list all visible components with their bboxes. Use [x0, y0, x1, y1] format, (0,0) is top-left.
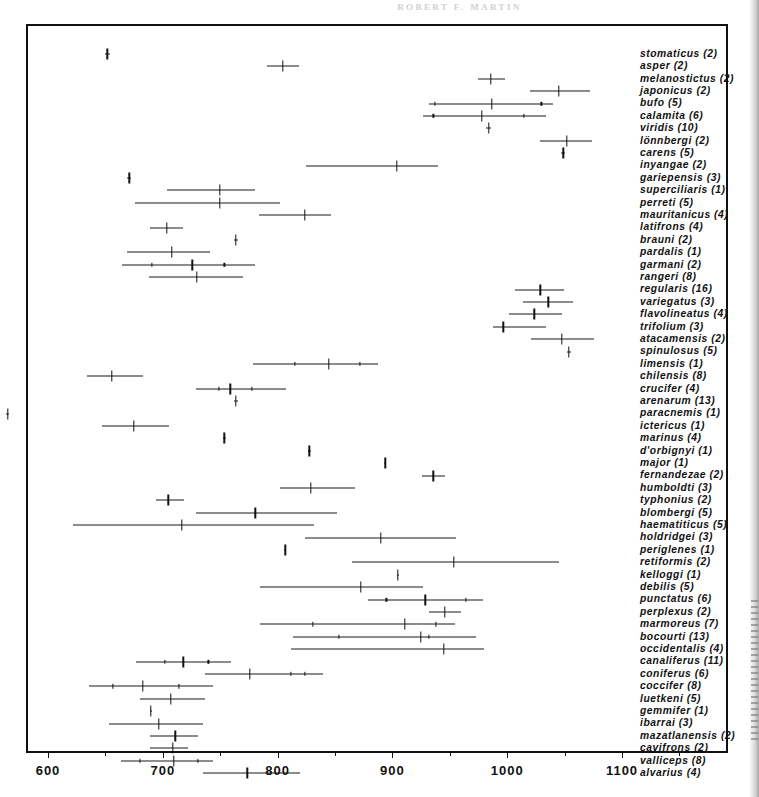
- species-row: ictericus (1): [28, 420, 726, 432]
- species-label: typhonius (2): [640, 494, 712, 506]
- species-row: debilis (5): [28, 581, 726, 593]
- sd-tick: [435, 622, 436, 626]
- species-label: mauritanicus (4): [640, 209, 728, 221]
- species-label: canaliferus (11): [640, 655, 724, 667]
- species-label: inyangae (2): [640, 159, 707, 171]
- x-axis: 60070080090010001100: [26, 753, 728, 793]
- species-row: superciliaris (1): [28, 184, 726, 196]
- page-edge-speckle: [751, 600, 758, 740]
- species-label: rangeri (8): [640, 271, 696, 283]
- running-head: ROBERT F. MARTIN: [0, 2, 759, 16]
- species-label: melanostictus (2): [640, 73, 734, 85]
- species-row: mazatlanensis (2): [28, 730, 726, 742]
- sd-tick: [113, 684, 114, 688]
- sd-tick: [251, 387, 252, 391]
- species-label: brauni (2): [640, 234, 692, 246]
- species-label: bocourti (13): [640, 631, 710, 643]
- sd-tick: [208, 659, 209, 663]
- species-label: arenarum (13): [640, 395, 715, 407]
- range-bar: [196, 388, 287, 389]
- species-row: kelloggi (1): [28, 569, 726, 581]
- mean-tick: [111, 371, 112, 382]
- species-label: regularis (16): [640, 283, 712, 295]
- sd-tick: [224, 263, 225, 267]
- mean-tick: [174, 730, 175, 741]
- mean-tick: [7, 408, 8, 419]
- species-row: limensis (1): [28, 358, 726, 370]
- data-layer: stomaticus (2)asper (2)melanostictus (2)…: [28, 26, 726, 751]
- sd-tick: [290, 672, 291, 676]
- mean-tick: [503, 321, 504, 332]
- range-bar: [306, 165, 438, 166]
- mean-tick: [420, 631, 421, 642]
- species-label: spinulosus (5): [640, 345, 718, 357]
- mean-tick: [491, 98, 492, 109]
- species-row: retiformis (2): [28, 556, 726, 568]
- sd-tick: [359, 362, 360, 366]
- species-row: mauritanicus (4): [28, 209, 726, 221]
- x-tick-label: 600: [36, 763, 61, 778]
- species-label: mazatlanensis (2): [640, 730, 735, 742]
- species-row: asper (2): [28, 60, 726, 72]
- range-bar: [291, 649, 484, 650]
- range-bar: [509, 314, 562, 315]
- mean-tick: [488, 123, 489, 134]
- mean-tick: [182, 656, 183, 667]
- species-row: d'orbignyi (1): [28, 445, 726, 457]
- species-label: blombergi (5): [640, 507, 712, 519]
- mean-tick: [481, 110, 482, 121]
- mean-tick: [304, 210, 305, 221]
- species-label: humboldti (3): [640, 482, 712, 494]
- species-label: crucifer (4): [640, 383, 700, 395]
- sd-tick: [433, 114, 434, 118]
- range-bar: [102, 425, 170, 426]
- mean-tick: [235, 396, 236, 407]
- mean-tick: [129, 172, 130, 183]
- range-bar: [260, 587, 423, 588]
- x-tick-label: 1000: [491, 763, 524, 778]
- species-label: perplexus (2): [640, 606, 711, 618]
- sd-tick: [294, 362, 295, 366]
- mean-tick: [568, 346, 569, 357]
- mean-tick: [219, 185, 220, 196]
- species-label: paracnemis (1): [640, 407, 720, 419]
- sd-tick: [152, 263, 153, 267]
- species-label: latifrons (4): [640, 221, 703, 233]
- x-tick-label: 1100: [606, 763, 638, 778]
- mean-tick: [444, 606, 445, 617]
- species-row: crucifer (4): [28, 383, 726, 395]
- species-row: flavolineatus (4): [28, 308, 726, 320]
- mean-tick: [142, 681, 143, 692]
- species-row: blombergi (5): [28, 507, 726, 519]
- range-bar: [260, 624, 455, 625]
- species-label: luetkeni (5): [640, 693, 701, 705]
- sd-tick: [339, 635, 340, 639]
- range-bar: [352, 562, 559, 563]
- species-label: fernandezae (2): [640, 469, 724, 481]
- mean-tick: [285, 544, 286, 555]
- sd-tick: [312, 622, 313, 626]
- mean-tick: [158, 718, 159, 729]
- range-bar: [156, 500, 185, 501]
- species-label: japonicus (2): [640, 85, 711, 97]
- sd-tick: [434, 101, 435, 105]
- species-row: fernandezae (2): [28, 469, 726, 481]
- species-label: marmoreus (7): [640, 618, 719, 630]
- mean-tick: [380, 532, 381, 543]
- species-label: carens (5): [640, 147, 694, 159]
- species-label: periglenes (1): [640, 544, 715, 556]
- x-tick-major: [163, 753, 164, 758]
- range-bar: [135, 202, 280, 203]
- x-tick-major: [278, 753, 279, 758]
- mean-tick: [309, 445, 310, 456]
- mean-tick: [150, 706, 151, 717]
- x-tick-label: 900: [380, 763, 405, 778]
- range-bar: [293, 636, 476, 637]
- species-label: variegatus (3): [640, 296, 715, 308]
- species-label: chilensis (8): [640, 370, 707, 382]
- mean-tick: [539, 284, 540, 295]
- range-bar: [127, 252, 210, 253]
- species-row: chilensis (8): [28, 370, 726, 382]
- species-row: calamita (6): [28, 110, 726, 122]
- species-label: flavolineatus (4): [640, 308, 728, 320]
